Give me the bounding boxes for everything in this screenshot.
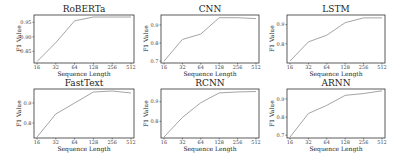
x-tick-label: 128 (340, 139, 350, 145)
x-tick-label: 64 (324, 139, 330, 145)
x-tick-label: 16 (287, 139, 293, 145)
plot-frame (287, 89, 385, 138)
y-tick-label: 0.7 (277, 132, 285, 138)
y-tick-label: 0.9 (277, 96, 285, 102)
x-tick-label: 32 (305, 139, 311, 145)
line-plot: 1632641282565120.70.80.9 (0, 0, 394, 161)
series-line (290, 91, 382, 137)
y-tick-label: 0.8 (277, 114, 285, 120)
x-tick-label: 512 (377, 139, 387, 145)
x-tick-label: 256 (359, 139, 369, 145)
